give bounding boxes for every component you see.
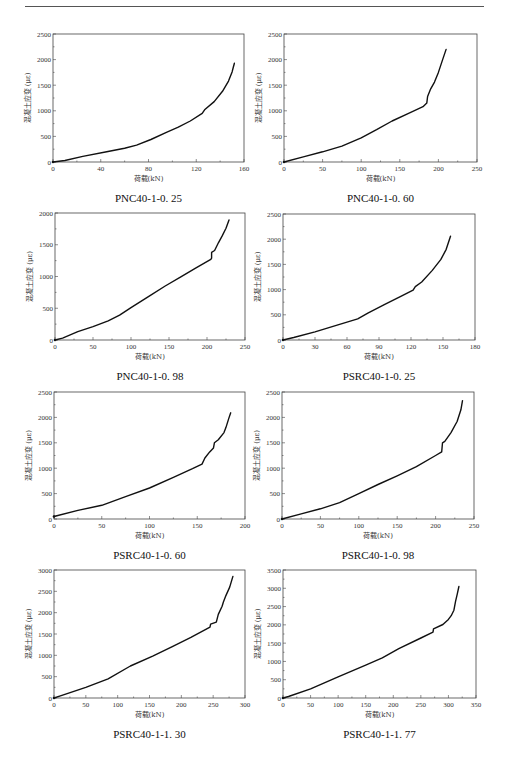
y-axis-title: 混凝土应变 (με) (24, 608, 33, 659)
series-line (284, 49, 446, 162)
y-tick-label: 500 (272, 133, 283, 141)
series-start-point (53, 515, 56, 518)
y-tick-label: 1000 (39, 273, 54, 281)
y-tick-label: 0 (277, 516, 281, 524)
y-tick-label: 1500 (39, 241, 54, 249)
chart-caption: PSRC40-1-1. 30 (113, 728, 186, 740)
chart-caption: PSRC40-1-0. 60 (113, 549, 186, 561)
y-tick-label: 2000 (267, 621, 282, 629)
plot-frame (283, 214, 475, 340)
chart-caption: PSRC40-1-1. 77 (343, 728, 416, 740)
x-axis-title: 荷载(kN) (365, 710, 395, 719)
chart-panel-7: 0501001502002503000500100015002000250030… (24, 567, 251, 741)
chart-panel-3: 0501001502002500500100015002000荷载(kN)混凝土… (25, 210, 251, 383)
series-start-point (52, 161, 55, 164)
chart-caption: PSRC40-1-0. 98 (342, 549, 415, 561)
y-tick-label: 500 (43, 305, 54, 313)
x-tick-label: 120 (191, 165, 202, 173)
series-start-point (282, 697, 285, 700)
y-tick-label: 2500 (267, 603, 282, 611)
y-axis-title: 混凝土应变 (με) (25, 251, 34, 302)
x-tick-label: 50 (317, 522, 325, 530)
x-tick-label: 300 (443, 701, 454, 709)
y-tick-label: 500 (42, 673, 53, 681)
y-tick-label: 0 (278, 337, 282, 345)
plot-frame (283, 570, 476, 698)
x-tick-label: 200 (176, 701, 187, 709)
y-tick-label: 1000 (267, 286, 282, 294)
series-line (282, 401, 463, 519)
x-tick-label: 150 (164, 343, 175, 351)
y-tick-label: 2500 (38, 389, 53, 397)
x-tick-label: 200 (433, 165, 444, 173)
x-tick-label: 50 (90, 343, 98, 351)
y-axis-title: 混凝土应变 (με) (252, 430, 261, 481)
x-tick-label: 0 (51, 165, 55, 173)
x-tick-label: 100 (356, 165, 367, 173)
x-tick-label: 0 (53, 343, 57, 351)
y-tick-label: 1500 (267, 261, 282, 269)
x-tick-label: 350 (471, 701, 482, 709)
series-start-point (282, 339, 285, 342)
chart-caption: PNC40-1-0. 25 (115, 192, 183, 204)
x-tick-label: 200 (388, 701, 399, 709)
y-tick-label: 0 (278, 695, 282, 703)
x-tick-label: 60 (344, 343, 352, 351)
x-tick-label: 0 (282, 165, 286, 173)
y-tick-label: 0 (49, 516, 53, 524)
series-line (53, 63, 234, 162)
x-tick-label: 80 (145, 165, 153, 173)
x-tick-label: 250 (208, 701, 219, 709)
chart-panel-8: 0501001502002503003500500100015002000250… (253, 567, 482, 741)
x-tick-label: 250 (469, 522, 480, 530)
x-tick-label: 300 (240, 701, 251, 709)
y-tick-label: 1000 (266, 465, 281, 473)
x-tick-label: 200 (202, 343, 213, 351)
x-tick-label: 200 (430, 522, 441, 530)
x-tick-label: 120 (406, 343, 417, 351)
chart-panel-4: 030609012015018005001000150020002500荷载(k… (253, 211, 481, 383)
x-tick-label: 100 (354, 522, 365, 530)
y-tick-label: 0 (48, 159, 52, 167)
x-tick-label: 30 (312, 343, 320, 351)
x-tick-label: 200 (240, 522, 251, 530)
y-tick-label: 0 (279, 159, 283, 167)
figure: 0408012016005001000150020002500荷载(kN)混凝土… (0, 0, 508, 761)
x-tick-label: 250 (472, 165, 483, 173)
x-tick-label: 0 (280, 522, 284, 530)
y-tick-label: 1500 (268, 82, 283, 90)
x-tick-label: 150 (360, 701, 371, 709)
y-tick-label: 500 (41, 133, 52, 141)
x-axis-title: 荷载(kN) (135, 710, 165, 719)
chart-caption: PNC40-1-0. 60 (347, 192, 415, 204)
x-tick-label: 50 (307, 701, 315, 709)
y-tick-label: 0 (50, 337, 54, 345)
y-axis-title: 混凝土应变 (με) (254, 72, 263, 123)
series-start-point (53, 697, 56, 700)
x-tick-label: 0 (281, 701, 285, 709)
plot-frame (284, 34, 477, 162)
y-tick-label: 2000 (268, 56, 283, 64)
y-tick-label: 0 (49, 695, 53, 703)
series-line (54, 576, 233, 698)
y-tick-label: 500 (271, 676, 282, 684)
y-tick-label: 1000 (37, 107, 52, 115)
y-tick-label: 2500 (266, 389, 281, 397)
chart-caption: PSRC40-1-0. 25 (343, 370, 416, 382)
x-tick-label: 150 (438, 343, 449, 351)
y-tick-label: 1000 (38, 652, 53, 660)
y-tick-label: 1500 (38, 439, 53, 447)
plot-frame (54, 570, 245, 698)
plot-frame (54, 392, 245, 519)
x-tick-label: 250 (416, 701, 427, 709)
x-tick-label: 90 (376, 343, 384, 351)
x-tick-label: 0 (281, 343, 285, 351)
y-tick-label: 2000 (39, 210, 54, 218)
y-tick-label: 3000 (267, 585, 282, 593)
y-tick-label: 1500 (37, 82, 52, 90)
plot-frame (55, 213, 245, 340)
y-axis-title: 混凝土应变 (με) (24, 430, 33, 481)
plot-frame (53, 34, 244, 162)
y-tick-label: 1000 (267, 658, 282, 666)
x-tick-label: 100 (112, 701, 123, 709)
